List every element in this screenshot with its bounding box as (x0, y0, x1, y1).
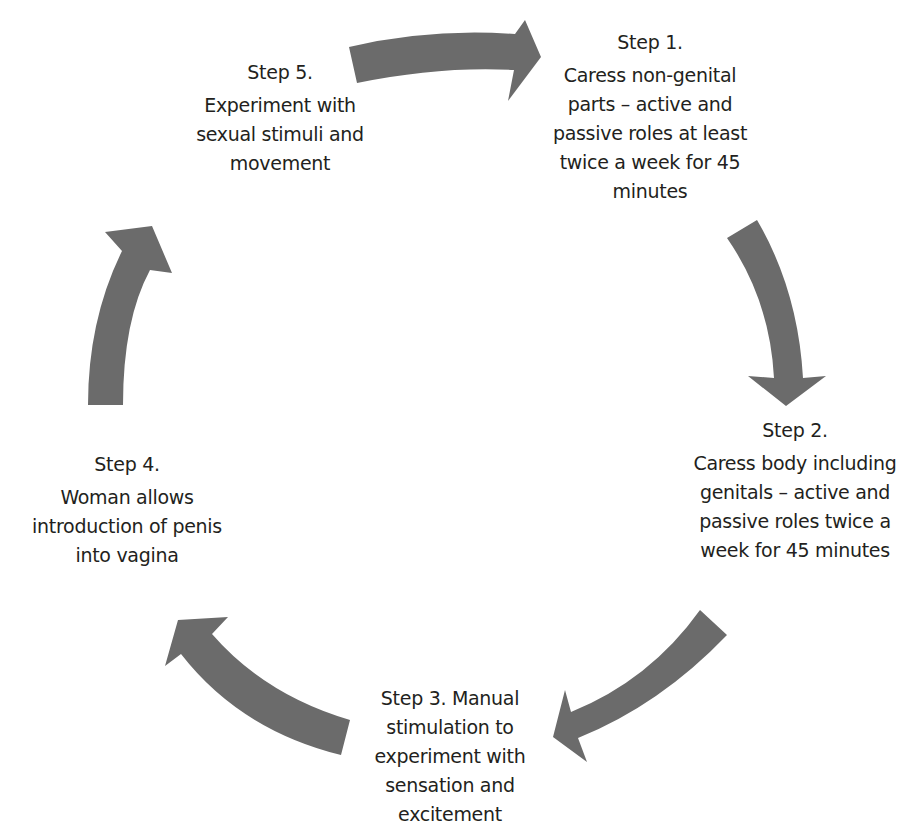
step-2-title: Step 2. (690, 416, 900, 445)
step-3-description: Step 3. Manual stimulation to experiment… (345, 684, 555, 829)
step-3: Step 3. Manual stimulation to experiment… (345, 684, 555, 829)
step-4-title: Step 4. (22, 450, 232, 479)
step-2-description: Caress body including genitals – active … (690, 449, 900, 565)
curved-arrow-up-icon (88, 226, 172, 405)
step-1: Step 1. Caress non-genital parts – activ… (545, 28, 755, 206)
curved-arrow-down-left-icon (553, 610, 727, 762)
curved-arrow-up-left-icon (165, 617, 350, 755)
curved-arrow-down-icon (727, 220, 826, 406)
step-1-description: Caress non-genital parts – active and pa… (545, 61, 755, 206)
step-4: Step 4. Woman allows introduction of pen… (22, 450, 232, 570)
step-2: Step 2. Caress body including genitals –… (690, 416, 900, 565)
step-1-title: Step 1. (545, 28, 755, 57)
step-4-description: Woman allows introduction of penis into … (22, 483, 232, 570)
step-5-title: Step 5. (180, 58, 380, 87)
step-5: Step 5. Experiment with sexual stimuli a… (180, 58, 380, 178)
step-5-description: Experiment with sexual stimuli and movem… (180, 91, 380, 178)
